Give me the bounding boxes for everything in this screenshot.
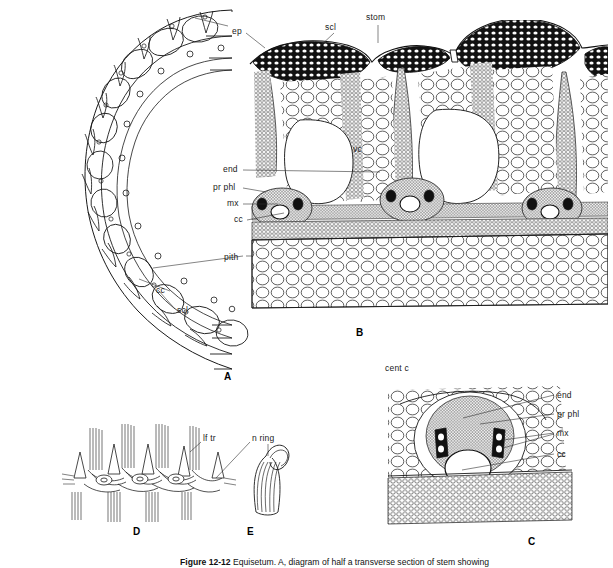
label-cent-c: cent c	[385, 364, 409, 373]
panel-letter-d: D	[133, 526, 140, 537]
panel-letter-b: B	[356, 327, 363, 338]
label-pr-phl-c: pr phl	[557, 410, 579, 419]
panel-b-artwork	[250, 19, 610, 308]
label-cc-b: cc	[234, 215, 243, 224]
label-pr-phl-b: pr phl	[213, 183, 235, 192]
label-mx-b: mx	[227, 199, 239, 208]
label-ep-b: ep	[232, 27, 242, 36]
label-end-b: end	[223, 165, 238, 174]
label-scl-b: scl	[325, 23, 336, 32]
label-cc-a: cc	[156, 286, 165, 295]
leader-ep	[246, 33, 265, 48]
figure-artwork	[0, 0, 613, 568]
label-pith-a: pith	[224, 253, 239, 262]
label-cc-c: cc	[557, 450, 566, 459]
label-scl-a: scl	[177, 306, 188, 315]
label-stom-b: stom	[366, 13, 385, 22]
leader-ep-from-a	[195, 18, 228, 26]
label-vc-b: vc	[353, 145, 362, 154]
figure-root: pith cc scl ep scl stom vc end pr phl mx…	[0, 0, 613, 568]
caption-text: Equisetum. A, diagram of half a transver…	[233, 557, 489, 567]
leader-lf-tr-2	[216, 442, 250, 478]
panel-e-artwork	[254, 445, 289, 515]
figure-caption: Figure 12-12 Equisetum. A, diagram of ha…	[180, 557, 613, 567]
label-n-ring: n ring	[252, 434, 274, 443]
panel-letter-c: C	[528, 536, 535, 547]
leader-lf-tr	[190, 442, 201, 452]
panel-letter-a: A	[224, 371, 231, 382]
panel-c-artwork	[388, 386, 572, 524]
caption-number: Figure 12-12	[180, 557, 231, 567]
panel-a-leaders	[139, 256, 268, 309]
label-lf-tr: lf tr	[203, 434, 216, 443]
label-mx-c: mx	[557, 429, 569, 438]
panel-letter-e: E	[247, 526, 254, 537]
label-end-c: end	[557, 391, 572, 400]
